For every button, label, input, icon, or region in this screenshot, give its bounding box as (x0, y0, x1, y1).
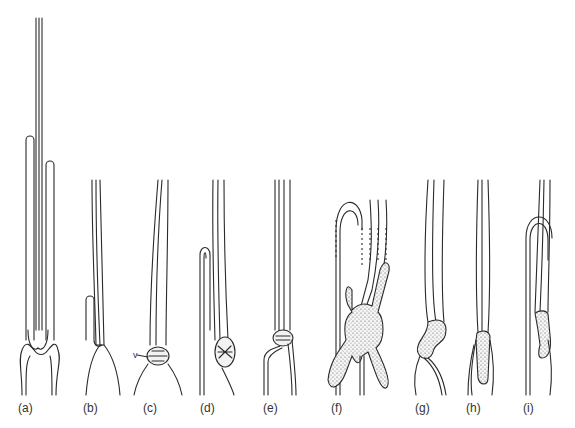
panel-g-drawing (415, 180, 446, 395)
panel-i-drawing (526, 180, 552, 395)
panel-label-f: (f) (331, 401, 342, 415)
panel-c-drawing (134, 180, 182, 395)
panel-d-drawing (200, 180, 235, 395)
panel-b-drawing (86, 180, 120, 395)
panel-h-drawing (468, 180, 493, 395)
panel-label-e: (e) (263, 401, 278, 415)
panel-label-g: (g) (415, 401, 430, 415)
panel-label-c: (c) (143, 401, 157, 415)
panel-label-i: (i) (523, 401, 534, 415)
panel-f-drawing (328, 200, 389, 395)
panel-label-h: (h) (466, 401, 481, 415)
hyphal-diagram (0, 0, 575, 428)
panel-a-drawing (20, 18, 59, 395)
panel-label-a: (a) (18, 401, 33, 415)
panel-label-b: (b) (83, 401, 98, 415)
vesicle-annotation-v: v (133, 350, 138, 360)
panel-e-drawing (264, 180, 296, 395)
panel-label-d: (d) (200, 401, 215, 415)
